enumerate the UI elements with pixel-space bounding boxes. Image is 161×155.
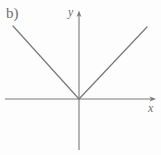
coordinate-plane-graphic [0, 0, 161, 155]
part-label: b) [6, 4, 19, 22]
x-axis-label: x [148, 102, 153, 114]
curve-right-branch [79, 27, 147, 99]
curve-left-branch [13, 26, 79, 99]
figure-container: b) y x [0, 0, 161, 155]
y-axis-label: y [68, 6, 73, 18]
